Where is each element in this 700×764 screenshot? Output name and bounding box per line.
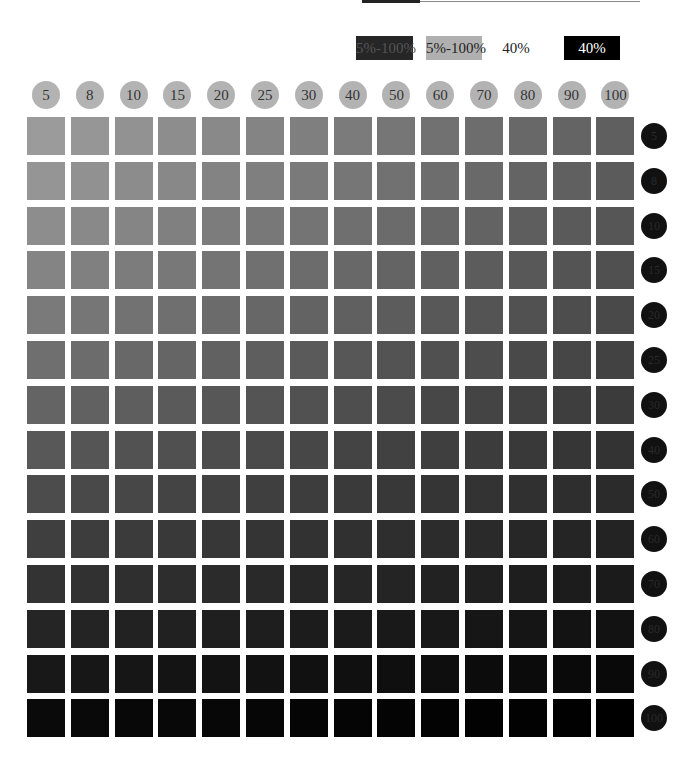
tint-cell xyxy=(246,341,284,379)
tint-cell xyxy=(596,520,634,558)
tint-cell xyxy=(27,251,65,289)
tint-cell xyxy=(421,251,459,289)
tint-cell xyxy=(27,610,65,648)
tint-cell xyxy=(246,296,284,334)
tint-cell xyxy=(115,207,153,245)
tint-cell xyxy=(246,431,284,469)
tint-cell xyxy=(202,117,240,155)
tint-cell xyxy=(158,655,196,693)
tint-cell xyxy=(202,565,240,603)
tint-cell xyxy=(290,431,328,469)
tint-cell xyxy=(509,655,547,693)
tint-cell xyxy=(27,655,65,693)
tint-cell xyxy=(27,117,65,155)
column-header-label: 30 xyxy=(295,81,323,109)
tint-cell xyxy=(465,475,503,513)
tint-cell xyxy=(421,117,459,155)
tint-cell xyxy=(290,251,328,289)
tint-cell xyxy=(553,251,591,289)
tint-cell xyxy=(377,117,415,155)
tint-cell xyxy=(596,699,634,737)
tint-cell xyxy=(377,296,415,334)
tint-cell xyxy=(71,162,109,200)
row-label: 5 xyxy=(641,123,667,149)
tint-cell xyxy=(202,610,240,648)
tint-cell xyxy=(334,655,372,693)
tint-cell xyxy=(202,431,240,469)
legend-item: 5%-100% xyxy=(426,36,482,60)
tint-cell xyxy=(158,251,196,289)
column-header-label: 15 xyxy=(163,81,191,109)
tint-cell xyxy=(115,251,153,289)
tint-cell xyxy=(290,162,328,200)
tint-cell xyxy=(334,162,372,200)
tint-cell xyxy=(27,520,65,558)
tint-cell xyxy=(509,251,547,289)
tint-cell xyxy=(421,475,459,513)
tint-cell xyxy=(509,386,547,424)
tint-cell xyxy=(509,431,547,469)
column-header-label: 8 xyxy=(76,81,104,109)
column-header-label: 100 xyxy=(601,81,629,109)
tint-cell xyxy=(115,431,153,469)
tint-cell xyxy=(115,520,153,558)
tint-cell xyxy=(421,610,459,648)
tint-cell xyxy=(158,565,196,603)
tint-cell xyxy=(246,565,284,603)
legend-item: 40% xyxy=(564,36,620,60)
tint-cell xyxy=(290,475,328,513)
tint-cell xyxy=(115,162,153,200)
tint-cell xyxy=(465,251,503,289)
top-bar-line xyxy=(420,1,640,2)
tint-cell xyxy=(290,117,328,155)
tint-cell xyxy=(202,207,240,245)
tint-cell xyxy=(509,207,547,245)
legend-item: 40% xyxy=(488,36,544,60)
tint-cell xyxy=(246,475,284,513)
tint-cell xyxy=(553,341,591,379)
tint-cell xyxy=(465,207,503,245)
tint-cell xyxy=(377,207,415,245)
tint-cell xyxy=(553,610,591,648)
tint-cell xyxy=(115,565,153,603)
tint-cell xyxy=(71,386,109,424)
tint-cell xyxy=(27,386,65,424)
tint-cell xyxy=(553,207,591,245)
tint-cell xyxy=(377,610,415,648)
tint-cell xyxy=(202,699,240,737)
legend-item: 5%-100% xyxy=(356,36,413,60)
tint-cell xyxy=(246,610,284,648)
row-label: 30 xyxy=(641,392,667,418)
tint-cell xyxy=(509,610,547,648)
tint-cell xyxy=(509,162,547,200)
tint-cell xyxy=(71,207,109,245)
tint-cell xyxy=(465,386,503,424)
row-label: 50 xyxy=(641,481,667,507)
tint-cell xyxy=(465,162,503,200)
tint-cell xyxy=(246,117,284,155)
row-label: 100 xyxy=(641,705,667,731)
row-label: 80 xyxy=(641,616,667,642)
tint-cell xyxy=(27,162,65,200)
tint-cell xyxy=(553,431,591,469)
tint-cell xyxy=(71,475,109,513)
tint-cell xyxy=(421,565,459,603)
row-label: 70 xyxy=(641,571,667,597)
tint-cell xyxy=(71,520,109,558)
tint-cell xyxy=(115,296,153,334)
tint-cell xyxy=(334,117,372,155)
tint-cell xyxy=(334,207,372,245)
tint-cell xyxy=(115,341,153,379)
tint-cell xyxy=(377,475,415,513)
tint-cell xyxy=(158,475,196,513)
tint-cell xyxy=(27,565,65,603)
tint-cell xyxy=(465,520,503,558)
tint-cell xyxy=(202,386,240,424)
tint-cell xyxy=(377,520,415,558)
tint-cell xyxy=(377,699,415,737)
column-header-label: 50 xyxy=(382,81,410,109)
column-header-label: 20 xyxy=(207,81,235,109)
tint-cell xyxy=(465,341,503,379)
tint-cell xyxy=(553,296,591,334)
tint-cell xyxy=(509,475,547,513)
